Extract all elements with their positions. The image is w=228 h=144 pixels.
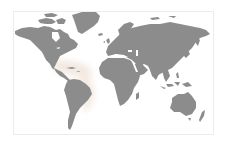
australia bbox=[170, 92, 196, 116]
world-map bbox=[0, 0, 228, 144]
caspian-sea bbox=[136, 50, 138, 56]
continents bbox=[15, 12, 210, 130]
greenland bbox=[72, 12, 100, 34]
black-sea bbox=[128, 50, 132, 52]
